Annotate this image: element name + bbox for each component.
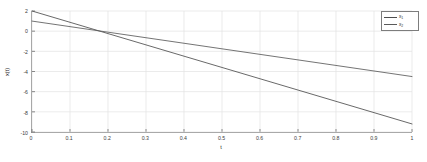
legend-swatch-2 <box>384 24 397 25</box>
series-line-1 <box>32 11 412 124</box>
legend[interactable]: x1x2 <box>381 11 419 31</box>
plot-area[interactable] <box>31 11 412 133</box>
figure-canvas: 00.10.20.30.40.50.60.70.80.91 20-2-4-6-8… <box>0 0 427 162</box>
x-tick-label: 0.7 <box>294 135 301 142</box>
y-tick-label: -2 <box>23 48 28 55</box>
x-tick-label: 0.6 <box>256 135 263 142</box>
legend-label-1: x1 <box>399 14 403 20</box>
legend-swatch-1 <box>384 17 397 18</box>
legend-item-1[interactable]: x1 <box>384 14 416 21</box>
legend-label-2: x2 <box>399 22 403 28</box>
x-tick-label: 0.1 <box>65 135 72 142</box>
series-line-2 <box>32 21 412 76</box>
y-tick-label: 2 <box>25 8 28 15</box>
y-tick-label: -8 <box>23 109 28 116</box>
x-tick-label: 0.5 <box>218 135 225 142</box>
y-tick-label: -4 <box>23 69 28 76</box>
y-tick-label: -6 <box>23 89 28 96</box>
legend-item-2[interactable]: x2 <box>384 21 416 28</box>
x-tick-label: 0.2 <box>104 135 111 142</box>
series-layer <box>32 11 412 132</box>
y-tick-label: -10 <box>21 130 29 137</box>
x-tick-label: 0.8 <box>332 135 339 142</box>
x-tick-label: 0 <box>30 135 33 142</box>
x-tick-label: 0.3 <box>142 135 149 142</box>
y-tick-label: 0 <box>25 28 28 35</box>
x-axis-label: t <box>220 144 222 150</box>
x-tick-label: 0.9 <box>370 135 377 142</box>
x-tick-label: 1 <box>411 135 414 142</box>
x-tick-label: 0.4 <box>180 135 187 142</box>
y-axis-label: x(t) <box>4 68 10 76</box>
